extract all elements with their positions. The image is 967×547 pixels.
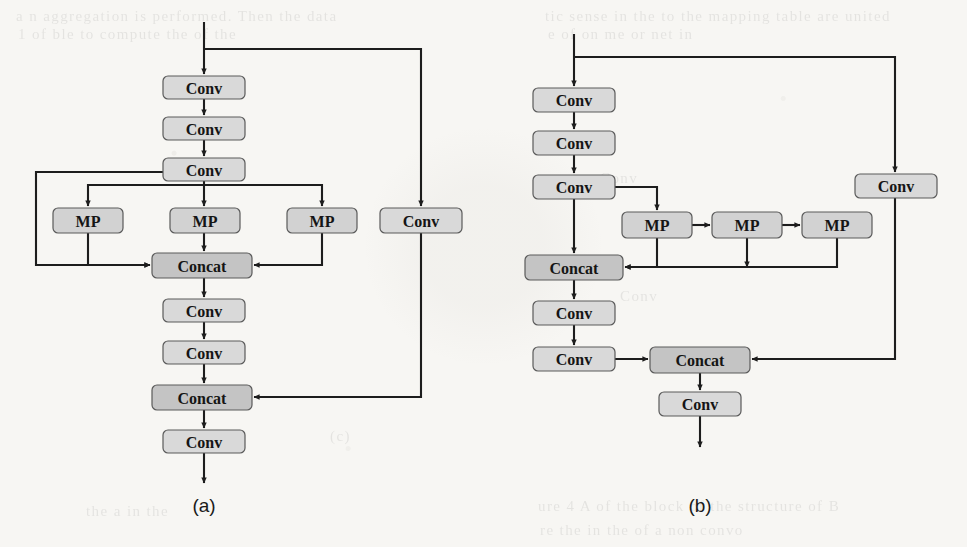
figure-page: a n aggregation is performed. Then the d… — [0, 0, 967, 547]
node-label: Conv — [878, 178, 914, 195]
node-label: MP — [76, 213, 101, 230]
node-conv: Conv — [533, 347, 615, 371]
panel-b-nodes: ConvConvConvConvMPMPMPConcatConvConvConc… — [525, 88, 937, 416]
node-label: MP — [825, 217, 850, 234]
panel-a-caption: (a) — [192, 495, 215, 516]
node-label: Conv — [186, 162, 222, 179]
node-conv: Conv — [163, 158, 245, 181]
node-label: MP — [310, 213, 335, 230]
node-label: Concat — [178, 390, 228, 407]
connector-arrow — [88, 233, 150, 265]
node-label: Concat — [550, 260, 600, 277]
node-label: MP — [735, 217, 760, 234]
node-mp: MP — [622, 212, 692, 238]
node-label: Conv — [186, 303, 222, 320]
node-conv: Conv — [380, 208, 462, 233]
panel-b-caption: (b) — [688, 495, 711, 516]
node-label: Conv — [556, 351, 592, 368]
connector-arrow — [204, 185, 322, 206]
panel-b-edges — [574, 34, 895, 447]
node-label: Conv — [186, 121, 222, 138]
node-label: Conv — [556, 179, 592, 196]
node-label: Conv — [556, 305, 592, 322]
node-conv: Conv — [163, 299, 245, 322]
node-label: Conv — [186, 80, 222, 97]
node-mp: MP — [802, 212, 872, 238]
node-conv: Conv — [533, 175, 615, 199]
node-conv: Conv — [533, 88, 615, 112]
connector-arrow — [254, 233, 421, 397]
connector-arrow — [254, 233, 322, 265]
node-concat: Concat — [152, 253, 252, 278]
node-label: Conv — [556, 92, 592, 109]
node-label: Conv — [186, 434, 222, 451]
connector-arrow — [625, 238, 657, 267]
node-label: Conv — [403, 213, 439, 230]
connector-arrow — [615, 187, 657, 210]
node-conv: Conv — [163, 430, 245, 453]
node-label: MP — [193, 213, 218, 230]
node-label: MP — [645, 217, 670, 234]
node-conv: Conv — [855, 174, 937, 198]
node-conv: Conv — [659, 392, 741, 416]
node-concat: Concat — [650, 347, 750, 373]
connector-arrow — [88, 185, 204, 206]
node-concat: Concat — [152, 385, 252, 410]
connector-arrow — [574, 57, 895, 172]
node-conv: Conv — [533, 131, 615, 155]
node-conv: Conv — [163, 341, 245, 364]
node-conv: Conv — [163, 117, 245, 140]
node-label: Concat — [676, 352, 726, 369]
node-mp: MP — [712, 212, 782, 238]
node-conv: Conv — [533, 301, 615, 325]
node-mp: MP — [53, 208, 123, 233]
architecture-diagram-svg: ConvConvConvMPMPMPConvConcatConvConvConc… — [0, 0, 967, 547]
node-mp: MP — [287, 208, 357, 233]
node-label: Concat — [178, 258, 228, 275]
node-concat: Concat — [525, 255, 623, 280]
node-label: Conv — [682, 396, 718, 413]
node-mp: MP — [170, 208, 240, 233]
node-label: Conv — [186, 345, 222, 362]
node-conv: Conv — [163, 76, 245, 99]
node-label: Conv — [556, 135, 592, 152]
